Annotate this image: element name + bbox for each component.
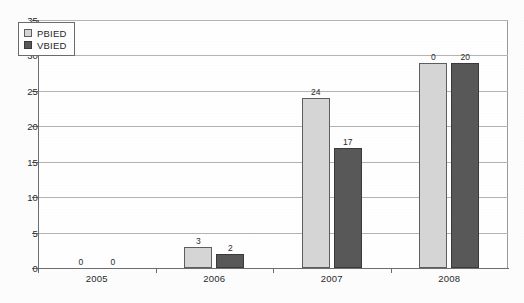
x-tick-label-2007: 2007 bbox=[321, 273, 343, 284]
bar-chart: 05101520253035 00322417020 2005200620072… bbox=[0, 0, 524, 303]
chart-legend: PBIED VBIED bbox=[18, 22, 75, 56]
x-tick-mark bbox=[156, 268, 157, 273]
x-tick-label-2006: 2006 bbox=[203, 273, 225, 284]
x-tick-mark bbox=[391, 268, 392, 273]
y-tick-label: 25 bbox=[8, 85, 38, 96]
x-tick-mark bbox=[38, 268, 39, 273]
x-tick-mark bbox=[273, 268, 274, 273]
legend-label-pbied: PBIED bbox=[37, 28, 67, 39]
legend-item: PBIED bbox=[24, 27, 67, 39]
bar-value-label: 0 bbox=[110, 257, 115, 267]
bar-pbied-2007 bbox=[302, 98, 330, 268]
y-tick-label: 20 bbox=[8, 121, 38, 132]
bar-value-label: 20 bbox=[461, 52, 470, 62]
y-tick-label: 15 bbox=[8, 156, 38, 167]
bar-value-label: 3 bbox=[196, 236, 201, 246]
legend-label-vbied: VBIED bbox=[37, 40, 67, 51]
bar-value-label: 24 bbox=[311, 87, 320, 97]
bar-value-label: 0 bbox=[78, 257, 83, 267]
legend-item: VBIED bbox=[24, 39, 67, 51]
bar-pbied-2008 bbox=[419, 63, 447, 268]
bar-value-label: 17 bbox=[343, 137, 352, 147]
legend-swatch-pbied-icon bbox=[24, 29, 32, 37]
bars-layer: 00322417020 bbox=[38, 20, 508, 268]
y-tick-label: 5 bbox=[8, 227, 38, 238]
y-tick-label: 0 bbox=[8, 263, 38, 274]
y-tick-label: 10 bbox=[8, 192, 38, 203]
x-tick-label-2008: 2008 bbox=[438, 273, 460, 284]
legend-swatch-vbied-icon bbox=[24, 41, 32, 49]
bar-value-label: 2 bbox=[228, 243, 233, 253]
bar-pbied-2006 bbox=[184, 247, 212, 268]
bar-value-label: 0 bbox=[431, 52, 436, 62]
bar-vbied-2006 bbox=[216, 254, 244, 268]
x-tick-label-2005: 2005 bbox=[86, 273, 108, 284]
bar-vbied-2007 bbox=[334, 148, 362, 268]
bar-vbied-2008 bbox=[451, 63, 479, 268]
